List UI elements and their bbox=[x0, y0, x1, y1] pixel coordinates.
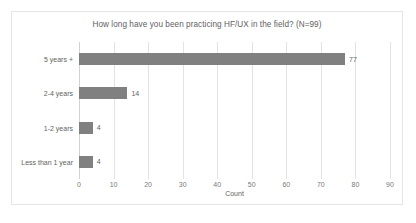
bar-row[interactable]: 2-4 years14 bbox=[79, 78, 390, 108]
x-tick-label: 10 bbox=[110, 181, 118, 188]
category-label: 2-4 years bbox=[44, 90, 73, 97]
bar-value-label: 4 bbox=[97, 124, 101, 131]
bar-value-label: 77 bbox=[349, 56, 357, 63]
figure-caption-strip bbox=[0, 214, 416, 223]
x-tick-label: 70 bbox=[317, 181, 325, 188]
bar-row[interactable]: 1-2 years4 bbox=[79, 113, 390, 143]
x-tick-label: 0 bbox=[77, 181, 81, 188]
x-tick-label: 80 bbox=[352, 181, 360, 188]
x-tick-label: 90 bbox=[386, 181, 394, 188]
bar-value-label: 14 bbox=[131, 90, 139, 97]
x-axis-title: Count bbox=[79, 190, 390, 197]
bar[interactable] bbox=[79, 53, 345, 65]
x-tick-label: 60 bbox=[282, 181, 290, 188]
bar-row[interactable]: Less than 1 year4 bbox=[79, 147, 390, 177]
category-label: 5 years + bbox=[44, 56, 73, 63]
x-tick-label: 30 bbox=[179, 181, 187, 188]
bars-layer: 5 years +772-4 years141-2 years4Less tha… bbox=[79, 42, 390, 179]
plot-area: 5 years +772-4 years141-2 years4Less tha… bbox=[79, 42, 390, 179]
bar[interactable] bbox=[79, 87, 127, 99]
bar[interactable] bbox=[79, 122, 93, 134]
x-tick-label: 50 bbox=[248, 181, 256, 188]
category-label: 1-2 years bbox=[44, 124, 73, 131]
x-tick-label: 20 bbox=[144, 181, 152, 188]
chart-title: How long have you been practicing HF/UX … bbox=[12, 20, 402, 29]
category-label: Less than 1 year bbox=[21, 158, 73, 165]
bar-row[interactable]: 5 years +77 bbox=[79, 44, 390, 74]
bar-value-label: 4 bbox=[97, 158, 101, 165]
x-tick-label: 40 bbox=[213, 181, 221, 188]
chart-frame: How long have you been practicing HF/UX … bbox=[11, 11, 403, 205]
gridline-90 bbox=[390, 42, 391, 179]
bar[interactable] bbox=[79, 156, 93, 168]
